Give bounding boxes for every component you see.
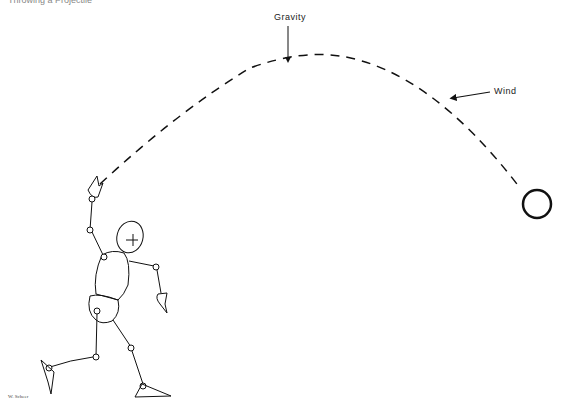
gravity-label: Gravity	[274, 12, 306, 22]
wind-label: Wind	[494, 86, 517, 96]
wind-arrow	[453, 92, 490, 98]
artist-signature: W. Scheer	[8, 394, 28, 399]
projectile-diagram	[0, 0, 567, 411]
thrower-figure	[41, 176, 171, 397]
trajectory-path	[100, 55, 520, 189]
ball-icon	[523, 190, 551, 218]
